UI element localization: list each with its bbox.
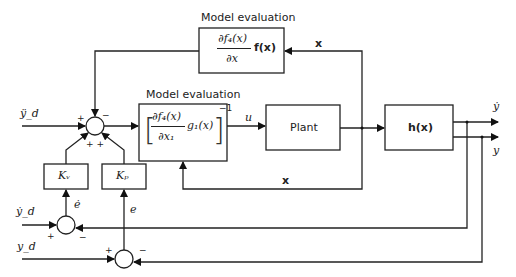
kv-label: Kᵥ [58, 169, 70, 182]
signal-yddd: ÿ_d [20, 107, 39, 120]
mid-fraction-bar [151, 126, 185, 127]
top-tail: f(x) [254, 41, 276, 54]
plant-label: Plant [290, 121, 318, 134]
kp-label: Kₚ [116, 169, 129, 182]
block-diagram: Model evaluation Model evaluation ∂f₄(x)… [0, 0, 516, 277]
signal-edot: ė [74, 198, 81, 211]
bracket-right: ] [213, 109, 225, 151]
sign-sum1-plus: + [77, 113, 85, 123]
signal-u: u [245, 111, 252, 124]
top-fraction-den: ∂x [226, 52, 238, 65]
sign-sum3-minus: − [139, 245, 147, 255]
sum-junction-3 [115, 250, 133, 268]
sign-sum1-minus: − [102, 110, 110, 120]
mid-exponent: −1 [219, 103, 232, 113]
mid-fraction-num: ∂f₄(x) [152, 110, 181, 123]
model-eval-top-title: Model evaluation [201, 11, 295, 24]
model-eval-mid-title: Model evaluation [146, 88, 240, 101]
sign-sum2-minus: − [79, 232, 87, 242]
sign-sum3-plus: + [105, 245, 113, 255]
signal-ydd: ẏ_d [16, 205, 35, 218]
top-fraction-num: ∂f₄(x) [218, 32, 247, 45]
sign-sum1-plus-bottom: + + [86, 139, 104, 149]
signal-y-out: y [493, 144, 499, 157]
signal-ydot-out: ẏ [493, 100, 499, 113]
sum-junction-2 [57, 216, 75, 234]
signal-x-top: x [315, 37, 322, 50]
top-fraction-bar [217, 48, 251, 49]
signal-x-bottom: x [282, 174, 289, 187]
mid-fraction-den: ∂x₁ [158, 130, 174, 143]
signal-yd: y_d [17, 240, 36, 253]
mid-tail: g₁(x) [187, 119, 213, 132]
sign-sum2-plus: + [47, 231, 55, 241]
signal-e: e [130, 203, 137, 216]
h-label: h(x) [408, 121, 433, 134]
